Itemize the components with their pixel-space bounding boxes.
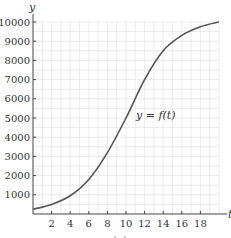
x-tick-label: 2 (48, 218, 54, 229)
x-tick-label: 8 (104, 218, 110, 229)
x-tick-label: 4 (67, 218, 73, 229)
y-tick-label: 6000 (5, 93, 30, 104)
ticks: 2468101214161810002000300040005000600070… (0, 17, 207, 230)
x-tick-label: 14 (157, 218, 170, 229)
x-axis-label: t (228, 208, 231, 221)
y-tick-label: 3000 (5, 151, 30, 162)
y-tick-label: 4000 (5, 132, 30, 143)
y-tick-label: 10000 (0, 17, 30, 28)
y-tick-label: 8000 (5, 55, 30, 66)
x-tick-label: 12 (138, 218, 151, 229)
y-tick-label: 9000 (5, 36, 30, 47)
chart: 2468101214161810002000300040005000600070… (0, 0, 231, 238)
x-tick-label: 6 (86, 218, 92, 229)
x-tick-label: 16 (175, 218, 188, 229)
curve-label: y = f(t) (135, 109, 176, 122)
x-tick-label: 10 (120, 218, 133, 229)
y-axis-label: y (28, 1, 36, 14)
y-tick-label: 1000 (5, 189, 30, 200)
x-tick-label: 18 (194, 218, 207, 229)
figure-caption: (a) (113, 234, 127, 238)
axes (33, 14, 227, 214)
y-tick-label: 7000 (5, 74, 30, 85)
y-tick-label: 2000 (5, 170, 30, 181)
logistic-chart-svg: 2468101214161810002000300040005000600070… (0, 0, 231, 238)
y-tick-label: 5000 (5, 113, 30, 124)
